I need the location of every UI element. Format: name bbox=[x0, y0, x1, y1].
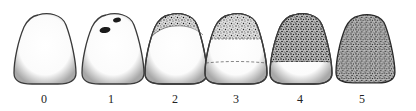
stage-label-2: 2 bbox=[172, 92, 178, 106]
stage-label-1: 1 bbox=[108, 92, 114, 106]
stage-label-0: 0 bbox=[41, 92, 47, 106]
stage-label-4: 4 bbox=[297, 92, 303, 106]
stage-label-3: 3 bbox=[233, 92, 239, 106]
tooth-stage-1 bbox=[82, 14, 144, 84]
tooth-stage-4 bbox=[270, 13, 332, 84]
tooth-stage-3 bbox=[205, 13, 267, 84]
tooth-stage-2 bbox=[145, 13, 207, 84]
tooth-stage-0 bbox=[14, 14, 76, 84]
tooth-stage-5 bbox=[336, 15, 395, 83]
stain-upper-two-thirds bbox=[270, 13, 332, 62]
stage-label-5: 5 bbox=[359, 92, 365, 106]
tooth-stage-diagram: 0 1 2 3 4 5 bbox=[0, 0, 416, 111]
